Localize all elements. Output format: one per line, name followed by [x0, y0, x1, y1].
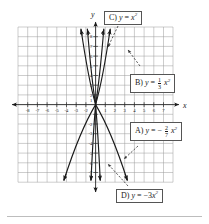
x-tick-label: -5	[55, 108, 60, 113]
x-tick-label: 3	[124, 108, 127, 113]
figure-root: -8 -7 -6 -5 -4 -3 -2 1 2 3 4 5 6 7 8 7 6…	[0, 0, 209, 224]
label-b-tag: B)	[135, 78, 143, 87]
x-tick-label: -3	[74, 108, 79, 113]
y-tick-label: 1	[90, 98, 93, 103]
x-tick-label: 7	[162, 108, 165, 113]
x-tick-label: -7	[35, 108, 40, 113]
label-a-sign: −	[158, 126, 163, 135]
label-a-fraction: 2 7	[165, 125, 168, 138]
label-d-lhs: y	[131, 191, 135, 200]
x-tick-label: 2	[114, 108, 117, 113]
label-b-eq: =	[151, 78, 156, 87]
label-c-lhs: y	[119, 13, 123, 22]
label-a-tag: A)	[135, 126, 143, 135]
label-a-box[interactable]: A) y = − 2 7 x2	[130, 122, 182, 141]
label-a-exp: 2	[175, 126, 177, 131]
footer-divider	[7, 216, 202, 217]
x-tick-label: -6	[45, 108, 50, 113]
x-axis-label: x	[183, 101, 187, 110]
label-b-lhs: y	[145, 78, 149, 87]
x-tick-label: 5	[143, 108, 146, 113]
label-c-eq: =	[125, 13, 130, 22]
label-c-box[interactable]: C) y = x2	[104, 11, 142, 25]
label-b-numerator: 1	[158, 77, 161, 83]
label-b-exp: 2	[168, 78, 170, 83]
label-a-numerator: 2	[165, 125, 168, 131]
x-tick-label: 1	[104, 108, 107, 113]
leader-a	[124, 146, 138, 159]
label-d-coefficient: −3	[144, 191, 153, 200]
label-b-denominator: 3	[158, 83, 161, 90]
label-a-denominator: 7	[165, 131, 168, 138]
label-a-eq: =	[151, 126, 156, 135]
y-axis-label: y	[91, 10, 95, 19]
label-d-eq: =	[137, 191, 142, 200]
label-b-box[interactable]: B) y = 1 3 x2	[130, 74, 175, 93]
label-d-box[interactable]: D) y = −3x2	[116, 189, 163, 203]
x-tick-label: -4	[65, 108, 70, 113]
x-tick-label: 4	[133, 108, 136, 113]
label-b-fraction: 1 3	[158, 77, 161, 90]
x-tick-label: -8	[26, 108, 31, 113]
label-c-exp: 2	[135, 12, 137, 17]
label-c-tag: C)	[109, 13, 117, 22]
leader-lines	[108, 26, 140, 186]
x-tick-label: -2	[84, 108, 89, 113]
label-a-lhs: y	[145, 126, 149, 135]
graph-canvas: -8 -7 -6 -5 -4 -3 -2 1 2 3 4 5 6 7 8 7 6…	[0, 0, 209, 224]
leader-b	[128, 50, 140, 66]
label-d-tag: D)	[121, 191, 129, 200]
label-d-exp: 2	[156, 190, 158, 195]
x-tick-label: 6	[153, 108, 156, 113]
